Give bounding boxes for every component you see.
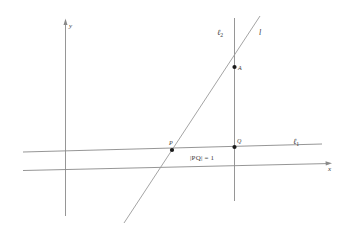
line-l2-label: ℓ2 bbox=[217, 29, 223, 38]
point-q-label: Q bbox=[237, 138, 241, 144]
x-axis-line bbox=[23, 164, 330, 171]
line-l bbox=[124, 16, 260, 223]
point-q-marker bbox=[232, 145, 236, 149]
point-a-marker bbox=[232, 65, 236, 69]
point-p-label: P bbox=[169, 140, 173, 146]
y-axis bbox=[64, 19, 68, 217]
x-axis-label: x bbox=[328, 166, 331, 173]
figure-svg bbox=[0, 0, 339, 235]
line-l1-label: ℓ1 bbox=[293, 138, 299, 147]
line-l2-label-subscript: 2 bbox=[220, 32, 223, 38]
y-axis-arrow-icon bbox=[64, 19, 68, 26]
x-axis bbox=[23, 161, 332, 170]
line-l1-label-subscript: 1 bbox=[296, 141, 299, 147]
line-l-stroke bbox=[124, 16, 260, 223]
point-p-marker bbox=[170, 148, 174, 152]
y-axis-label: y bbox=[69, 23, 72, 30]
segment-length-label: |PQ| = 1 bbox=[190, 155, 214, 162]
geometry-figure: y x l ℓ2 ℓ1 A P Q |PQ| = 1 bbox=[0, 0, 339, 235]
point-a-label: A bbox=[238, 65, 242, 71]
line-l-label: l bbox=[259, 29, 261, 37]
